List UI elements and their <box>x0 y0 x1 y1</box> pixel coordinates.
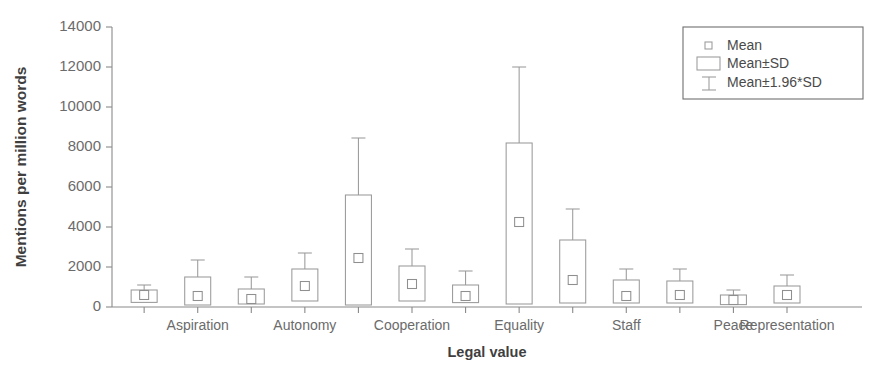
sd-box <box>345 195 371 305</box>
y-tick-label: 4000 <box>68 217 101 234</box>
box-whisker-chart: 02000400060008000100001200014000 Mention… <box>0 0 875 382</box>
x-tick-label: Cooperation <box>374 317 450 333</box>
legend-mean-marker-icon <box>705 42 712 49</box>
mean-marker <box>783 291 792 300</box>
x-tick-label: Aspiration <box>167 317 229 333</box>
mean-marker <box>461 292 470 301</box>
x-tick-label: Equality <box>494 317 544 333</box>
legend-box-marker-icon <box>697 57 720 70</box>
mean-marker <box>354 254 363 263</box>
chart-legend: Mean Mean±SD Mean±1.96*SD <box>683 27 863 99</box>
mean-marker <box>247 295 256 304</box>
x-tick-label: Staff <box>612 317 641 333</box>
x-tick-label: Autonomy <box>273 317 336 333</box>
mean-marker <box>193 292 202 301</box>
legend-item-sd: Mean±SD <box>697 55 789 71</box>
x-tick-label: Representation <box>740 317 835 333</box>
y-axis-title: Mentions per million words <box>12 67 29 268</box>
legend-label-sd: Mean±SD <box>727 55 789 71</box>
legend-label-mean: Mean <box>727 37 762 53</box>
y-tick-label: 14000 <box>59 17 101 34</box>
mean-marker <box>622 292 631 301</box>
mean-marker <box>729 296 738 305</box>
legend-label-ci: Mean±1.96*SD <box>727 74 822 90</box>
y-tick-label: 0 <box>93 297 101 314</box>
chart-figure: 02000400060008000100001200014000 Mention… <box>0 0 875 382</box>
y-tick-label: 8000 <box>68 137 101 154</box>
y-tick-label: 6000 <box>68 177 101 194</box>
mean-marker <box>568 276 577 285</box>
sd-box <box>560 240 586 303</box>
y-tick-label: 2000 <box>68 257 101 274</box>
y-tick-label: 10000 <box>59 97 101 114</box>
mean-marker <box>140 291 149 300</box>
x-axis-title: Legal value <box>448 344 527 360</box>
mean-marker <box>515 218 524 227</box>
y-tick-label: 12000 <box>59 57 101 74</box>
mean-marker <box>300 282 309 291</box>
mean-marker <box>675 291 684 300</box>
mean-marker <box>408 280 417 289</box>
